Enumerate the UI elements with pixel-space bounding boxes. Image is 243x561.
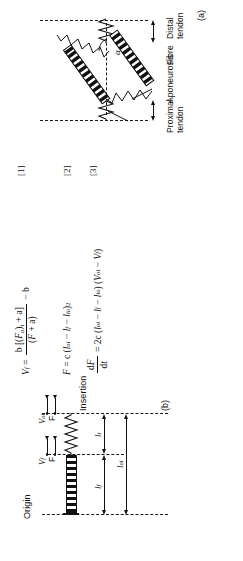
insertion-force-arrow [55,398,56,414]
insertion-velocity-arrowhead [45,395,49,399]
force-label-junction: F [48,457,58,462]
dim-arrow-total-right [124,414,128,419]
proximal-tendon-label: Proximal tendon [166,99,185,133]
dim-arrow-distal-right [151,20,155,25]
force-label-insertion: F [48,416,58,421]
dim-arrow-proximal-right [151,100,155,105]
dim-line-total [126,417,127,511]
dim-line-fibre [104,457,105,511]
dim-arrow-fibre-left [102,510,106,515]
dim-label-total: loi [115,460,125,468]
dim-arrow-tendon-left [102,449,106,454]
dim-arrow-proximal-left [151,116,155,121]
origin-label: Origin [22,494,32,519]
equation-2-number: [2] [62,166,72,177]
dim-arrow-total-left [124,510,128,515]
label-leader-lines [106,85,160,129]
contractile-element [66,455,77,513]
velocity-fibre-label: Vf [37,458,47,465]
origin-post [63,513,79,515]
dim-label-tendon: lt [93,433,103,437]
insertion-label: Insertion [78,376,88,411]
fibre-label: Fibre [166,45,176,65]
pennation-angle-label: α [112,50,122,55]
junction-velocity-arrow [47,439,48,455]
velocity-origin-label: Voi [37,414,47,424]
dim-arrow-fibre-right [102,455,106,460]
panel-b: Origin Insertion F [0,311,243,561]
dim-arrow-distal-left [151,38,155,43]
dim-arrow-tendon-right [102,414,106,419]
insertion-velocity-arrow [47,398,48,414]
panel-a-tag: (a) [196,10,206,21]
junction-force-arrow [55,439,56,455]
dim-line-proximal-tendon [153,103,154,117]
figure-canvas: Vf = b [(Fo)i + a] (F + a) −b [1] F= c(l… [0,0,243,561]
figure-rotated-stage: Vf = b [(Fo)i + a] (F + a) −b [1] F= c(l… [0,0,243,561]
panel-a: α Proximal tendon Aponeurosis Fibre Dist… [0,0,243,143]
equation-1-number: [1] [16,166,26,177]
dim-line-distal-tendon [153,23,154,39]
junction-reference-line [48,454,124,455]
equation-3-number: [3] [88,166,98,177]
junction-force-arrowhead [53,436,57,440]
distal-tendon-label: Distal tendon [166,12,185,39]
dim-line-tendon [104,417,105,450]
pennation-angle-arc [96,35,112,57]
dim-label-fibre: lf [93,485,103,489]
insertion-force-arrowhead [53,395,57,399]
series-elastic-spring [63,413,81,455]
panel-b-tag: (b) [160,400,170,411]
junction-velocity-arrowhead [45,436,49,440]
